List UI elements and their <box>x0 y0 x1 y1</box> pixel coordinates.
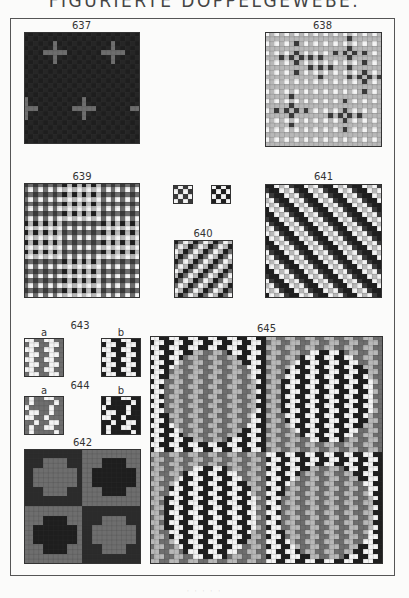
figure-643b <box>101 338 141 377</box>
figure-644-label: 644 <box>60 380 100 391</box>
figure-643b-label: b <box>101 327 141 338</box>
figure-643a <box>24 338 64 377</box>
figure-643a-label: a <box>24 327 64 338</box>
figure-638 <box>265 32 382 147</box>
figure-642 <box>24 449 141 564</box>
figure-644b-label: b <box>101 385 141 396</box>
figure-641-label: 641 <box>265 171 382 182</box>
figure-644b <box>101 396 141 435</box>
figure-638-label: 638 <box>265 20 380 31</box>
figure-640-weave-b <box>211 185 231 204</box>
figure-644a <box>24 396 64 435</box>
figure-643-label: 643 <box>60 320 100 331</box>
figure-645-label: 645 <box>150 323 383 334</box>
figure-641 <box>265 184 382 298</box>
page-title: FIGURIERTE DOPPELGEWEBE. <box>0 0 409 11</box>
figure-639-label: 639 <box>24 171 140 182</box>
figure-642-label: 642 <box>24 437 141 448</box>
figure-640 <box>174 240 233 298</box>
figure-645 <box>150 336 383 564</box>
figure-637 <box>24 32 140 144</box>
figure-640-label: 640 <box>173 228 233 239</box>
figure-639 <box>24 183 140 298</box>
figure-640-weave-a <box>173 185 193 204</box>
page-footer: · · · · · <box>0 587 409 594</box>
figure-637-label: 637 <box>24 20 139 31</box>
figure-644a-label: a <box>24 385 64 396</box>
